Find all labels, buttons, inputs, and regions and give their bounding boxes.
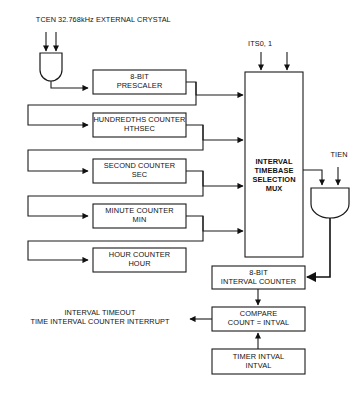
tien-gate-output-wire [307,218,330,277]
diagram-canvas [0,0,361,397]
hundredths-counter-box [93,113,186,137]
hour-counter-box [93,248,186,272]
crystal-label: 32.768kHz EXTERNAL CRYSTAL [58,16,208,24]
second-counter-box [93,159,186,183]
tien-label: TIEN [322,151,356,159]
interrupt-output-line1: INTERVAL TIMEOUT [14,308,186,317]
interrupt-output-line2: TIME INTERVAL COUNTER INTERRUPT [14,317,186,326]
block-diagram: TCEN 32.768kHz EXTERNAL CRYSTAL ITS0, 1 … [0,0,361,397]
tien-and-gate [311,188,349,218]
minute-counter-box [93,204,186,228]
second-to-mux-wire [186,171,243,186]
timer-intval-box [212,349,305,374]
minute-to-mux-wire [186,216,243,231]
tcen-and-gate [40,53,62,81]
mux-box [245,72,303,257]
its-label: ITS0, 1 [248,40,302,48]
interrupt-output-label: INTERVAL TIMEOUT TIME INTERVAL COUNTER I… [14,308,186,326]
prescaler-box [93,70,186,94]
interval-counter-box [212,266,305,289]
hundredths-to-mux-wire [186,125,243,140]
compare-box [212,307,305,331]
mux-output-wire [303,170,322,185]
and-gate-output-wire [51,81,88,88]
prescaler-to-mux-wire [186,82,243,95]
